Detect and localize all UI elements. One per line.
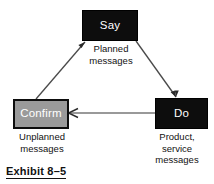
- node-confirm-label: Confirm: [20, 108, 62, 120]
- node-say-sublabel: Planned messages: [72, 43, 150, 66]
- node-say-label: Say: [100, 20, 120, 32]
- node-do-sublabel: Product, service messages: [142, 131, 212, 166]
- exhibit-caption: Exhibit 8–5: [6, 165, 66, 179]
- node-confirm[interactable]: Confirm: [13, 99, 69, 129]
- edge-do-to-confirm: [69, 109, 156, 118]
- node-say[interactable]: Say: [82, 10, 138, 41]
- exhibit-diagram: Say Do Confirm Planned messages Unplanne…: [0, 0, 214, 184]
- node-do-label: Do: [174, 108, 189, 120]
- node-confirm-sublabel: Unplanned messages: [4, 131, 80, 154]
- node-do[interactable]: Do: [155, 98, 208, 129]
